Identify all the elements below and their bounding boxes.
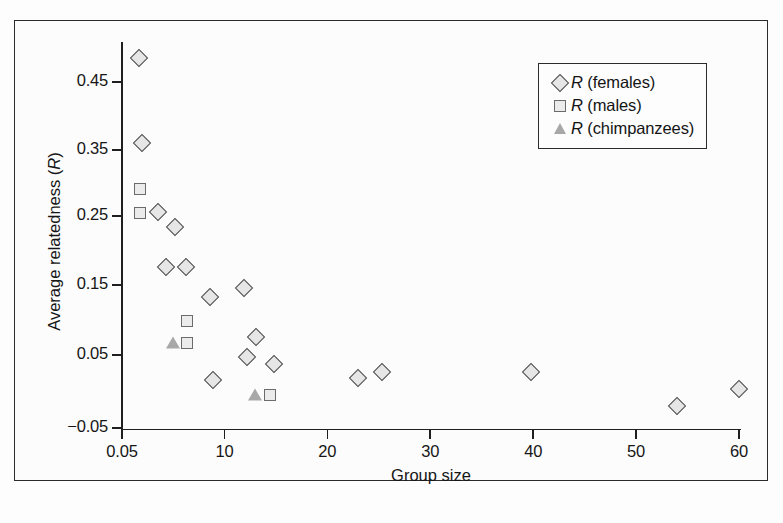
figure-panel: 0.450.350.250.150.05−0.05 0.051020304050…	[0, 0, 783, 523]
y-tick-label: −0.05	[0, 417, 108, 436]
y-tick-label: 0.45	[0, 71, 108, 90]
x-tick-mark	[738, 430, 740, 439]
y-tick-mark	[112, 427, 121, 429]
data-point-diamond	[238, 348, 256, 366]
data-point-triangle	[166, 336, 180, 348]
legend-item-triangle: R (chimpanzees)	[549, 117, 694, 140]
y-tick-mark	[112, 284, 121, 286]
data-point-square	[134, 183, 146, 195]
data-point-diamond	[373, 363, 391, 381]
data-point-triangle	[248, 389, 262, 401]
x-axis-title: Group size	[121, 466, 741, 485]
legend-item-square: R (males)	[549, 94, 694, 117]
legend-item-label: R (chimpanzees)	[571, 119, 694, 138]
y-axis-title-symbol: R	[45, 158, 63, 170]
triangle-icon	[549, 119, 571, 139]
y-tick-mark	[112, 215, 121, 217]
data-point-square	[181, 315, 193, 327]
legend-item-label: R (males)	[571, 96, 642, 115]
legend-item-diamond: R (females)	[549, 71, 694, 94]
data-point-diamond	[166, 218, 184, 236]
x-tick-mark	[429, 430, 431, 439]
data-point-diamond	[133, 134, 151, 152]
data-point-diamond	[247, 327, 265, 345]
data-point-diamond	[201, 287, 219, 305]
data-point-diamond	[265, 354, 283, 372]
x-tick-label: 0.05	[106, 442, 137, 461]
data-point-diamond	[668, 397, 686, 415]
legend-item-label: R (females)	[571, 73, 655, 92]
x-tick-mark	[635, 430, 637, 439]
x-tick-mark	[121, 430, 123, 439]
y-axis-title: Average relatedness (R)	[45, 92, 64, 392]
data-point-square	[264, 389, 276, 401]
x-tick-label: 20	[318, 442, 336, 461]
y-tick-mark	[112, 81, 121, 83]
data-point-square	[181, 337, 193, 349]
data-point-diamond	[522, 363, 540, 381]
x-tick-mark	[224, 430, 226, 439]
data-point-diamond	[148, 203, 166, 221]
data-point-diamond	[177, 258, 195, 276]
data-point-diamond	[349, 369, 367, 387]
diamond-icon	[549, 73, 571, 93]
data-point-diamond	[157, 258, 175, 276]
data-point-diamond	[130, 49, 148, 67]
legend-box: R (females)R (males)R (chimpanzees)	[538, 63, 707, 149]
data-point-diamond	[235, 279, 253, 297]
x-tick-mark	[532, 430, 534, 439]
y-tick-mark	[112, 354, 121, 356]
square-icon	[549, 96, 571, 116]
x-tick-label: 30	[421, 442, 439, 461]
x-tick-label: 50	[627, 442, 645, 461]
x-tick-mark	[327, 430, 329, 439]
x-tick-label: 40	[524, 442, 542, 461]
x-tick-label: 10	[215, 442, 233, 461]
x-tick-label: 60	[730, 442, 748, 461]
data-point-square	[134, 207, 146, 219]
y-tick-mark	[112, 149, 121, 151]
caption-fragment	[8, 496, 778, 514]
data-point-diamond	[204, 370, 222, 388]
